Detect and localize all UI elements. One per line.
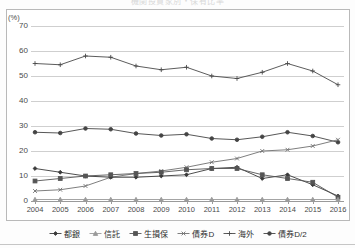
series-海外 bbox=[33, 54, 341, 87]
series-債券D bbox=[33, 138, 340, 193]
legend-item-債券D/2[interactable]: 債券D/2 bbox=[263, 228, 306, 239]
y-tick-label-70: 70 bbox=[2, 22, 28, 30]
legend-marker-triangle-icon bbox=[89, 229, 102, 238]
x-tick-2014 bbox=[288, 201, 289, 204]
x-tick-2005 bbox=[60, 201, 61, 204]
legend-label: 生損保 bbox=[144, 228, 168, 239]
x-tick-label-2012: 2012 bbox=[224, 205, 250, 214]
x-tick-2010 bbox=[187, 201, 188, 204]
legend-marker-plus-icon bbox=[223, 229, 236, 238]
x-tick-2008 bbox=[136, 201, 137, 204]
plot-area bbox=[31, 26, 344, 201]
legend-item-海外[interactable]: 海外 bbox=[223, 228, 254, 239]
x-tick-2016 bbox=[338, 201, 339, 204]
chart-title: 機関投資家別・保有比率 bbox=[0, 0, 355, 6]
y-tick-label-10: 10 bbox=[2, 172, 28, 180]
x-tick-label-2005: 2005 bbox=[47, 205, 73, 214]
chart-title-strip: 機関投資家別・保有比率 bbox=[0, 0, 355, 9]
chart-legend: 都銀信託生損保債券D海外債券D/2 bbox=[6, 225, 350, 241]
series-lines bbox=[31, 26, 344, 201]
series-生損保 bbox=[33, 167, 340, 200]
legend-item-都銀[interactable]: 都銀 bbox=[49, 228, 80, 239]
chart-screenshot: 機関投資家別・保有比率 (%) 706050403020100 20042005… bbox=[0, 0, 355, 248]
legend-item-信託[interactable]: 信託 bbox=[89, 228, 120, 239]
y-tick-label-40: 40 bbox=[2, 97, 28, 105]
legend-label: 信託 bbox=[104, 228, 120, 239]
series-債券D/2 bbox=[33, 127, 340, 144]
legend-label: 海外 bbox=[238, 228, 254, 239]
x-tick-2009 bbox=[161, 201, 162, 204]
x-tick-2012 bbox=[237, 201, 238, 204]
x-tick-label-2013: 2013 bbox=[249, 205, 275, 214]
x-tick-label-2015: 2015 bbox=[300, 205, 326, 214]
y-axis-unit: (%) bbox=[8, 13, 20, 22]
y-tick-label-30: 30 bbox=[2, 122, 28, 130]
footer-rule bbox=[0, 244, 355, 245]
x-tick-label-2009: 2009 bbox=[148, 205, 174, 214]
legend-label: 都銀 bbox=[64, 228, 80, 239]
legend-marker-square-icon bbox=[129, 229, 142, 238]
legend-marker-dot-icon bbox=[263, 229, 276, 238]
x-tick-label-2014: 2014 bbox=[275, 205, 301, 214]
y-tick-label-20: 20 bbox=[2, 147, 28, 155]
x-tick-label-2006: 2006 bbox=[73, 205, 99, 214]
x-tick-2015 bbox=[313, 201, 314, 204]
x-tick-2004 bbox=[35, 201, 36, 204]
x-tick-label-2007: 2007 bbox=[98, 205, 124, 214]
x-tick-2006 bbox=[86, 201, 87, 204]
x-tick-label-2010: 2010 bbox=[174, 205, 200, 214]
y-tick-label-50: 50 bbox=[2, 72, 28, 80]
legend-marker-cross-icon bbox=[177, 229, 190, 238]
legend-label: 債券D bbox=[192, 228, 214, 239]
x-tick-2011 bbox=[212, 201, 213, 204]
legend-marker-diamond-icon bbox=[49, 229, 62, 238]
x-tick-2013 bbox=[262, 201, 263, 204]
legend-label: 債券D/2 bbox=[278, 228, 306, 239]
legend-item-債券D[interactable]: 債券D bbox=[177, 228, 214, 239]
x-tick-label-2011: 2011 bbox=[199, 205, 225, 214]
y-tick-label-60: 60 bbox=[2, 47, 28, 55]
x-tick-label-2016: 2016 bbox=[325, 205, 351, 214]
x-tick-label-2008: 2008 bbox=[123, 205, 149, 214]
x-tick-label-2004: 2004 bbox=[22, 205, 48, 214]
x-tick-2007 bbox=[111, 201, 112, 204]
legend-item-生損保[interactable]: 生損保 bbox=[129, 228, 168, 239]
y-tick-label-0: 0 bbox=[2, 197, 28, 205]
